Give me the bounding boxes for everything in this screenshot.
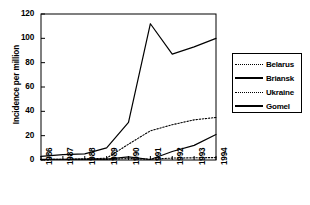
legend-label-briansk: Briansk: [266, 74, 294, 83]
legend-item-belarus: Belarus: [235, 57, 299, 71]
legend-label-ukraine: Ukraine: [266, 88, 294, 97]
legend-label-gomel: Gomel: [266, 102, 290, 111]
data-series-layer: [41, 24, 216, 160]
series-line-ukraine: [41, 117, 216, 159]
legend-swatch-ukraine: [235, 92, 263, 93]
series-line-briansk: [41, 134, 216, 159]
legend-swatch-gomel: [235, 105, 263, 106]
legend-item-ukraine: Ukraine: [235, 85, 299, 99]
legend-label-belarus: Belarus: [266, 60, 294, 69]
legend-item-briansk: Briansk: [235, 71, 299, 85]
legend-swatch-belarus: [235, 64, 263, 65]
axis-tick-marks: [41, 14, 216, 160]
chart-figure: Incidence per million 020406080100120 19…: [0, 0, 310, 205]
legend-item-gomel: Gomel: [235, 99, 299, 113]
series-line-gomel: [41, 24, 216, 157]
axes-frame: [41, 14, 216, 160]
legend-swatch-briansk: [235, 77, 263, 78]
legend: Belarus Briansk Ukraine Gomel: [232, 53, 302, 113]
